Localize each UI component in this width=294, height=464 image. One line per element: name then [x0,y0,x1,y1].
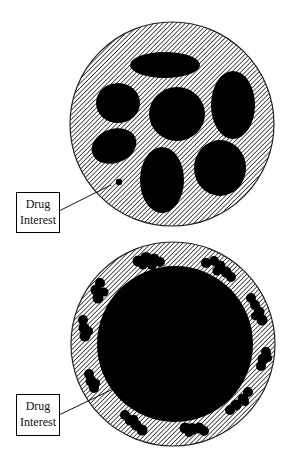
solid-core-circle [97,266,253,422]
drug-domain-ellipse [130,52,200,78]
drug-domain-ellipse [149,87,205,141]
drug-of-interest-dot [116,179,122,185]
label-line-2: Interest [17,212,59,228]
label-line-2: Interest [17,414,59,430]
label-line-1: Drug [17,196,59,212]
drug-domain-ellipse [211,71,255,139]
top-drug-interest-label: Drug Interest [16,192,60,233]
label-line-1: Drug [17,398,59,414]
drug-domain-ellipse [96,83,140,123]
drug-domain-ellipse [194,140,246,196]
bottom-drug-interest-label: Drug Interest [16,394,60,436]
bottom-particle [59,242,275,446]
drug-domain-ellipse [140,147,184,213]
top-particle [59,22,274,226]
